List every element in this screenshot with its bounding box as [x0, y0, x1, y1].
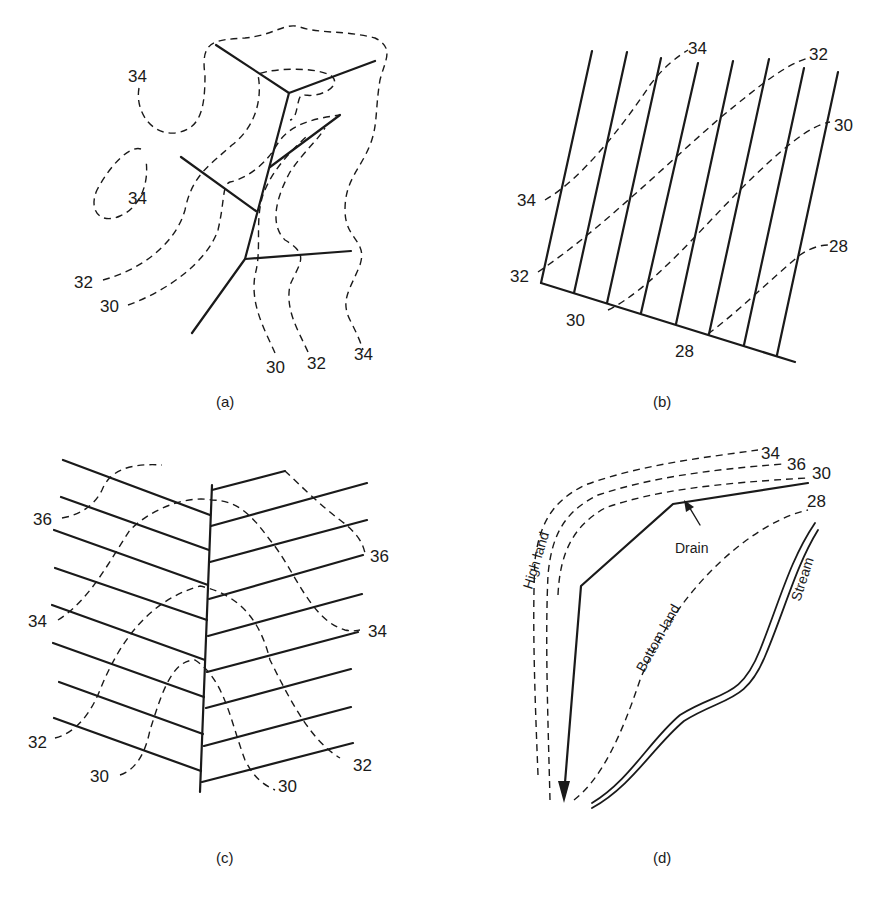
panel-c: 36 34 32 30 36 34 32 30 (c) [28, 460, 389, 866]
contour-label: 34 [688, 39, 707, 58]
contour-label: 32 [510, 267, 529, 286]
panel-b-contour-labels: 34 32 30 28 34 32 30 28 [510, 39, 853, 361]
contour-label: 34 [28, 612, 47, 631]
bottom-land-annotation: Bottom land [633, 601, 683, 674]
contour-label: 34 [128, 67, 147, 86]
contour-label: 36 [370, 547, 389, 566]
panel-c-caption: (c) [216, 849, 234, 866]
panel-a-caption: (a) [216, 393, 234, 410]
contour-label: 28 [675, 342, 694, 361]
contour-label: 32 [809, 45, 828, 64]
contour-label: 34 [354, 345, 373, 364]
contour-label: 30 [834, 116, 853, 135]
contour-label: 30 [278, 777, 297, 796]
drain-flow-arrowhead-icon [558, 781, 570, 803]
contour-label: 34 [517, 191, 536, 210]
panel-d-stream [592, 523, 818, 808]
contour-label: 28 [829, 237, 848, 256]
panel-d-drain-pointer [684, 500, 700, 525]
panel-b: 34 32 30 28 34 32 30 28 (b) [510, 39, 853, 410]
contour-label: 32 [307, 354, 326, 373]
contour-label: 34 [368, 622, 387, 641]
contour-label: 32 [28, 733, 47, 752]
contour-label: 34 [761, 444, 780, 463]
panel-b-caption: (b) [653, 393, 671, 410]
contour-label: 36 [787, 455, 806, 474]
contour-label: 32 [74, 273, 93, 292]
panel-a: 34 34 32 30 30 32 34 (a) [74, 26, 387, 410]
contour-label: 30 [812, 464, 831, 483]
contour-label: 30 [266, 358, 285, 377]
panel-d-contour-labels: 34 36 30 28 [761, 444, 831, 511]
panel-b-drain-lines [541, 51, 838, 362]
contour-label: 32 [353, 756, 372, 775]
drainage-figure: 34 34 32 30 30 32 34 (a) [0, 0, 877, 897]
panel-d: 34 36 30 28 Drain High land Bottom land … [520, 444, 831, 866]
panel-a-contour-labels: 34 34 32 30 30 32 34 [74, 67, 373, 377]
drain-annotation: Drain [675, 540, 708, 556]
contour-label: 30 [100, 297, 119, 316]
stream-annotation: Stream [788, 555, 817, 603]
contour-label: 34 [128, 189, 147, 208]
panel-a-drain-lines [181, 45, 375, 333]
panel-d-caption: (d) [653, 849, 671, 866]
contour-label: 36 [33, 510, 52, 529]
contour-label: 30 [90, 767, 109, 786]
contour-label: 28 [807, 492, 826, 511]
contour-label: 30 [566, 311, 585, 330]
